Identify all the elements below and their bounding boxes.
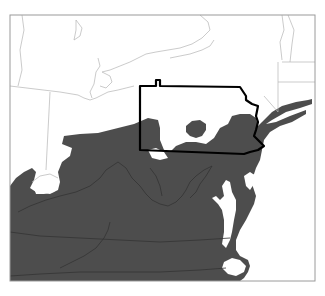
map-canvas — [0, 0, 325, 296]
map-figure — [0, 0, 325, 296]
